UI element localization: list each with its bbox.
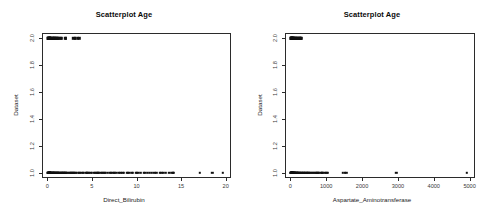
x-tick-label: 4000 — [428, 183, 440, 189]
x-tick — [434, 178, 435, 181]
plot-area — [42, 33, 231, 178]
data-point — [60, 37, 62, 39]
chart-panel-aspartate-aminotransferase: Scatterplot Age Aspartate_Aminotransfera… — [248, 0, 496, 216]
x-tick — [362, 178, 363, 181]
x-tick — [290, 178, 291, 181]
x-tick-label: 0 — [289, 183, 292, 189]
x-tick-label: 5000 — [463, 183, 475, 189]
x-tick-label: 3000 — [392, 183, 404, 189]
x-tick — [92, 178, 93, 181]
data-point — [327, 171, 329, 173]
chart-panel-direct-bilirubin: Scatterplot Age Direct_Bilirubin Dataset… — [0, 0, 248, 216]
data-point — [173, 171, 175, 173]
x-tick-label: 20 — [223, 183, 229, 189]
x-tick-label: 0 — [46, 183, 49, 189]
x-tick — [470, 178, 471, 181]
y-tick — [282, 146, 285, 147]
data-point — [395, 171, 397, 173]
y-tick — [282, 92, 285, 93]
y-tick — [39, 92, 42, 93]
x-axis-title: Aspartate_Aminotransferase — [248, 196, 496, 203]
y-tick — [39, 173, 42, 174]
x-tick-label: 15 — [178, 183, 184, 189]
x-tick — [326, 178, 327, 181]
data-point — [211, 171, 213, 173]
data-point — [199, 171, 201, 173]
x-tick — [398, 178, 399, 181]
y-axis-title: Dataset — [12, 94, 19, 115]
y-tick — [282, 119, 285, 120]
y-tick — [39, 119, 42, 120]
x-tick — [181, 178, 182, 181]
x-tick — [226, 178, 227, 181]
y-tick — [39, 65, 42, 66]
x-tick-label: 2000 — [356, 183, 368, 189]
x-tick-label: 1000 — [320, 183, 332, 189]
panel-title: Scatterplot Age — [248, 10, 496, 19]
data-point — [466, 171, 468, 173]
y-tick — [282, 38, 285, 39]
x-axis-title: Direct_Bilirubin — [0, 196, 248, 203]
x-tick-label: 10 — [133, 183, 139, 189]
x-tick — [47, 178, 48, 181]
y-tick — [39, 146, 42, 147]
data-point — [78, 37, 80, 39]
data-point — [155, 171, 157, 173]
y-axis-title: Dataset — [256, 94, 263, 115]
y-tick — [282, 65, 285, 66]
data-point — [300, 37, 302, 39]
data-point — [345, 171, 347, 173]
x-tick — [137, 178, 138, 181]
y-tick — [282, 173, 285, 174]
x-tick-label: 5 — [90, 183, 93, 189]
data-point — [222, 171, 224, 173]
y-tick — [39, 38, 42, 39]
panel-title: Scatterplot Age — [0, 10, 248, 19]
data-point — [165, 171, 167, 173]
scatterplot-figure: Scatterplot Age Direct_Bilirubin Dataset… — [0, 0, 496, 216]
plot-area — [285, 33, 475, 178]
data-point — [65, 37, 67, 39]
